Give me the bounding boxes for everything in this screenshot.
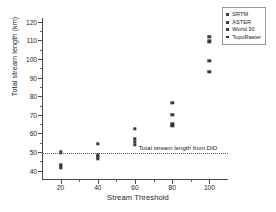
y-axis-minor-tick [40, 124, 42, 125]
data-point [133, 127, 136, 130]
x-axis-tick-label: 100 [204, 184, 215, 191]
data-point [133, 143, 136, 146]
y-axis-tick [38, 133, 42, 134]
y-axis-line [42, 18, 43, 180]
x-axis-minor-tick [79, 180, 80, 182]
data-point [208, 35, 211, 38]
y-axis-tick [38, 22, 42, 23]
y-axis-tick-label: 50 [30, 149, 37, 156]
plot-area: 40506070809010011012020406080100 Total s… [42, 18, 228, 180]
data-point [170, 101, 173, 104]
y-axis-tick-label: 120 [26, 18, 37, 25]
legend-label: SRTM [232, 11, 248, 18]
legend-entry: TopoRaster [226, 34, 261, 41]
x-axis-minor-tick [154, 180, 155, 182]
y-axis-tick [38, 96, 42, 97]
x-axis-tick-label: 20 [57, 184, 64, 191]
y-axis-minor-tick [40, 87, 42, 88]
data-point [170, 113, 173, 116]
data-point [208, 70, 211, 73]
y-axis-tick [38, 40, 42, 41]
legend-swatch-icon [226, 36, 229, 39]
y-axis-minor-tick [40, 68, 42, 69]
y-axis-tick-label: 40 [30, 167, 37, 174]
legend-swatch-icon [226, 28, 229, 31]
data-point [170, 124, 173, 127]
x-axis-title: Stream Threshold [0, 193, 276, 202]
legend-swatch-icon [226, 21, 229, 24]
y-axis-title: Total stream length (km) [10, 0, 19, 117]
legend-entry: ASTER [226, 19, 261, 26]
legend-entry: World 30 [226, 26, 261, 33]
y-axis-tick-label: 110 [26, 37, 37, 44]
y-axis-minor-tick [40, 31, 42, 32]
legend-swatch-icon [226, 13, 229, 16]
y-axis-tick-label: 70 [30, 111, 37, 118]
y-axis-minor-tick [40, 161, 42, 162]
data-point [96, 142, 99, 145]
y-axis-tick-label: 90 [30, 74, 37, 81]
reference-line [42, 153, 228, 154]
legend-label: World 30 [232, 26, 254, 33]
data-point [96, 157, 99, 160]
y-axis-minor-tick [40, 143, 42, 144]
reference-line-label: Total stream length from DiD [139, 144, 217, 151]
x-axis-tick-label: 80 [169, 184, 176, 191]
legend-entry: SRTM [226, 11, 261, 18]
y-axis-tick-label: 100 [26, 55, 37, 62]
y-axis-minor-tick [40, 106, 42, 107]
x-axis-minor-tick [191, 180, 192, 182]
x-axis-minor-tick [116, 180, 117, 182]
x-axis-tick-label: 60 [131, 184, 138, 191]
scatter-chart-figure: Total stream length (km) Stream Threshol… [0, 0, 276, 212]
data-point [59, 166, 62, 169]
legend-label: TopoRaster [232, 34, 261, 41]
x-axis-tick-label: 40 [94, 184, 101, 191]
y-axis-tick [38, 78, 42, 79]
y-axis-tick [38, 115, 42, 116]
chart-legend: SRTMASTERWorld 30TopoRaster [222, 7, 266, 45]
y-axis-tick [38, 171, 42, 172]
y-axis-tick-label: 80 [30, 93, 37, 100]
y-axis-tick-label: 60 [30, 130, 37, 137]
data-point [208, 40, 211, 43]
legend-label: ASTER [232, 19, 251, 26]
y-axis-minor-tick [40, 50, 42, 51]
data-point [208, 59, 211, 62]
y-axis-tick [38, 59, 42, 60]
